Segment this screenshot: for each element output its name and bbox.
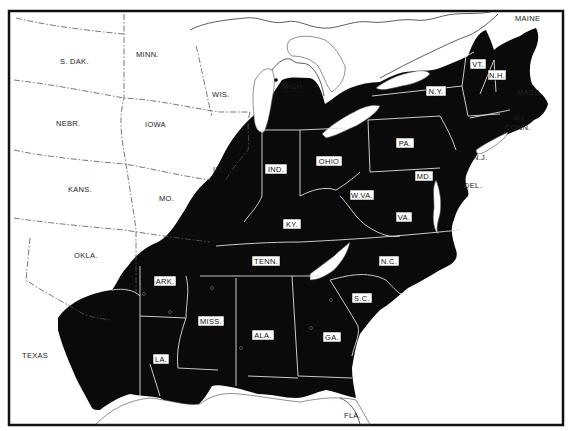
- label-ny: N.Y.: [426, 86, 446, 96]
- label-conn: CONN.: [505, 123, 531, 132]
- label-nebr: NEBR.: [56, 119, 80, 128]
- label-ark: ARK.: [154, 276, 176, 286]
- svg-text:N.H.: N.H.: [489, 71, 505, 80]
- svg-text:W.VA.: W.VA.: [351, 191, 373, 200]
- label-pa: PA.: [396, 138, 414, 148]
- svg-text:GA.: GA.: [325, 333, 339, 342]
- label-kans: KANS.: [68, 185, 92, 194]
- label-maine: MAINE: [515, 14, 540, 23]
- city-dot: [274, 78, 278, 82]
- label-del: DEL.: [464, 181, 482, 190]
- svg-text:PA.: PA.: [399, 139, 411, 148]
- svg-text:S.C.: S.C.: [354, 294, 370, 303]
- label-mo: MO.: [159, 194, 174, 203]
- label-sdak: S. DAK.: [60, 57, 89, 66]
- svg-text:N.C.: N.C.: [381, 257, 397, 266]
- svg-text:VT.: VT.: [472, 60, 484, 69]
- label-wis: WIS.: [212, 90, 229, 99]
- svg-text:ARK.: ARK.: [156, 277, 175, 286]
- range-map: S. DAK. MINN. WIS. MICH. NEBR. IOWA ILL.…: [0, 0, 573, 431]
- label-va: VA.: [396, 212, 412, 222]
- label-minn: MINN.: [136, 50, 159, 59]
- label-okla: OKLA.: [74, 251, 98, 260]
- label-la: LA.: [153, 354, 169, 364]
- svg-text:MISS.: MISS.: [200, 317, 222, 326]
- label-fla: FLA.: [344, 411, 361, 420]
- label-ill: ILL.: [213, 165, 227, 174]
- label-ga: GA.: [323, 332, 341, 342]
- label-ky: KY.: [283, 219, 301, 229]
- svg-text:VA.: VA.: [398, 213, 410, 222]
- label-sc: S.C.: [352, 293, 372, 303]
- label-tenn: TENN.: [252, 256, 280, 266]
- label-ri: R.I.: [514, 114, 527, 123]
- label-nj: N.J.: [473, 153, 488, 162]
- label-md: MD.: [415, 171, 433, 181]
- label-texas: TEXAS: [22, 351, 48, 360]
- label-iowa: IOWA: [145, 120, 166, 129]
- canada-border: [190, 12, 490, 30]
- label-miss: MISS.: [198, 316, 224, 326]
- label-wva: W.VA.: [350, 190, 374, 200]
- gulf-of-mexico: [96, 393, 370, 424]
- svg-text:IND.: IND.: [268, 165, 284, 174]
- svg-text:ALA.: ALA.: [254, 331, 271, 340]
- label-ind: IND.: [265, 164, 287, 174]
- label-nc: N.C.: [379, 256, 399, 266]
- label-mass: MASS.: [517, 88, 542, 97]
- label-ohio: OHIO: [316, 156, 342, 166]
- svg-text:TENN.: TENN.: [254, 257, 278, 266]
- label-ala: ALA.: [252, 330, 274, 340]
- label-mich: MICH.: [282, 82, 305, 91]
- svg-text:OHIO: OHIO: [319, 157, 339, 166]
- svg-text:KY.: KY.: [286, 220, 298, 229]
- svg-text:N.Y.: N.Y.: [429, 87, 444, 96]
- label-nh: N.H.: [488, 70, 506, 80]
- svg-text:MD.: MD.: [417, 172, 432, 181]
- svg-text:LA.: LA.: [155, 355, 167, 364]
- label-vt: VT.: [470, 59, 486, 69]
